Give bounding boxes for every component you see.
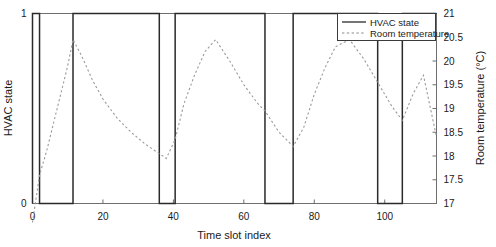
x-tick-label: 0 [30,211,36,222]
x-tick-label: 20 [97,211,109,222]
chart-legend: HVAC state Room temperature [338,14,450,41]
x-tick-label: 100 [376,211,393,222]
y-left-tick-label: 0 [21,198,27,209]
y-right-tick-label: 17 [444,198,456,209]
y-right-tick-label: 20 [444,56,456,67]
x-axis-title: Time slot index [197,229,271,241]
y-right-tick-label: 21 [444,8,456,19]
y-right-tick-label: 19 [444,103,456,114]
chart-figure: 020406080100 01 1717.51818.51919.52020.5… [0,0,496,247]
x-tick-label: 60 [238,211,250,222]
x-tick-label: 80 [309,211,321,222]
y-left-tick-label: 1 [21,8,27,19]
y-axis-left-title: HVAC state [2,80,14,137]
y-right-tick-label: 19.5 [444,79,464,90]
y-right-tick-label: 17.5 [444,174,464,185]
y-axis-right-title: Room temperature (°C) [474,51,486,165]
y-right-tick-label: 18.5 [444,127,464,138]
legend-label-room-temperature: Room temperature [370,28,449,39]
y-right-tick-label: 18 [444,151,456,162]
x-tick-label: 40 [168,211,180,222]
legend-label-hvac-state: HVAC state [370,17,419,28]
